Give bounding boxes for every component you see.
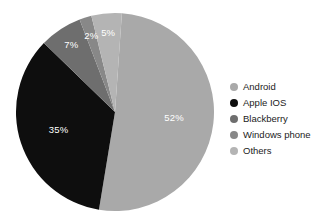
legend-item-android[interactable]: Android — [230, 79, 328, 95]
pie-chart-figure: 52%35%7%2%5% Android Apple IOS Blackberr… — [0, 0, 330, 224]
pie-slice-value-label: 2% — [84, 30, 98, 41]
legend-swatch-icon — [230, 147, 238, 155]
pie-slice-value-label: 5% — [101, 27, 115, 38]
pie-chart-plot-area: 52%35%7%2%5% — [16, 12, 214, 212]
legend-item-label: Others — [243, 143, 272, 159]
legend-swatch-icon — [230, 83, 238, 91]
legend-item-label: Android — [243, 79, 276, 95]
legend-item-label: Apple IOS — [243, 95, 286, 111]
pie-slice-value-label: 52% — [164, 112, 184, 123]
pie-slice-value-label: 35% — [49, 124, 69, 135]
legend-item-label: Windows phone — [243, 127, 311, 143]
pie-slice-group — [16, 13, 214, 211]
chart-legend: Android Apple IOS Blackberry Windows pho… — [230, 79, 328, 159]
legend-item-blackberry[interactable]: Blackberry — [230, 111, 328, 127]
pie-chart-svg: 52%35%7%2%5% — [16, 12, 214, 212]
legend-item-others[interactable]: Others — [230, 143, 328, 159]
legend-swatch-icon — [230, 131, 238, 139]
legend-item-label: Blackberry — [243, 111, 288, 127]
legend-swatch-icon — [230, 115, 238, 123]
legend-item-apple-ios[interactable]: Apple IOS — [230, 95, 328, 111]
legend-item-windows-phone[interactable]: Windows phone — [230, 127, 328, 143]
pie-slice-value-label: 7% — [64, 39, 78, 50]
legend-swatch-icon — [230, 99, 238, 107]
